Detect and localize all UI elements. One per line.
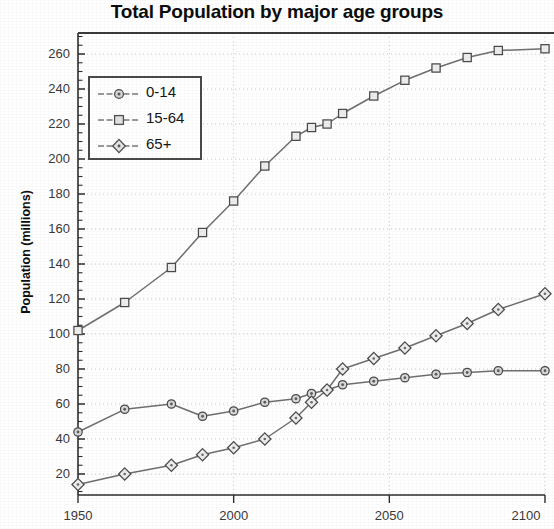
y-tick-label: 60: [30, 396, 70, 411]
data-point-15-64: [432, 64, 440, 72]
y-tick-label: 240: [30, 81, 70, 96]
data-point-65plus: [461, 317, 473, 329]
x-tick-label: 2100: [496, 508, 554, 523]
data-point-0-14: [370, 377, 378, 385]
data-point-65plus: [539, 288, 551, 300]
data-point-15-64: [261, 162, 269, 170]
legend-label-0-14: 0-14: [146, 83, 176, 100]
legend-item-0-14[interactable]: 0-14: [90, 81, 204, 107]
data-point-15-64: [370, 92, 378, 100]
data-point-65plus: [196, 449, 208, 461]
x-tick-label: 2050: [359, 508, 419, 523]
legend-item-65plus[interactable]: 65+: [90, 133, 204, 159]
data-point-65plus: [72, 478, 84, 490]
y-tick-label: 180: [30, 186, 70, 201]
legend-marker-square-icon: [96, 107, 142, 133]
legend: 0-14 15-64 65+: [88, 76, 202, 160]
x-tick-label: 2000: [204, 508, 264, 523]
data-point-15-64: [198, 228, 206, 236]
data-point-0-14: [74, 428, 82, 436]
data-point-15-64: [494, 46, 502, 54]
data-point-65plus: [228, 442, 240, 454]
data-point-65plus: [119, 468, 131, 480]
y-tick-label: 220: [30, 116, 70, 131]
data-point-0-14: [167, 400, 175, 408]
y-tick-label: 20: [30, 466, 70, 481]
data-point-65plus: [368, 352, 380, 364]
data-point-0-14: [121, 405, 129, 413]
data-point-65plus: [492, 303, 504, 315]
plot-area: [0, 0, 554, 529]
y-tick-label: 80: [30, 361, 70, 376]
x-tick-label: 1950: [48, 508, 108, 523]
legend-label-65plus: 65+: [146, 135, 171, 152]
data-point-65plus: [165, 459, 177, 471]
data-point-0-14: [292, 395, 300, 403]
data-point-0-14: [338, 381, 346, 389]
data-point-65plus: [430, 330, 442, 342]
legend-item-15-64[interactable]: 15-64: [90, 107, 204, 133]
data-point-15-64: [541, 45, 549, 53]
data-point-15-64: [121, 298, 129, 306]
y-tick-label: 100: [30, 326, 70, 341]
data-point-15-64: [339, 109, 347, 117]
data-point-65plus: [337, 363, 349, 375]
data-point-0-14: [401, 374, 409, 382]
data-point-15-64: [230, 197, 238, 205]
data-point-0-14: [432, 370, 440, 378]
data-point-65plus: [399, 342, 411, 354]
y-tick-label: 120: [30, 291, 70, 306]
data-point-15-64: [401, 76, 409, 84]
data-point-15-64: [74, 326, 82, 334]
y-tick-label: 40: [30, 431, 70, 446]
data-point-0-14: [261, 398, 269, 406]
data-point-15-64: [292, 132, 300, 140]
legend-label-15-64: 15-64: [146, 109, 184, 126]
data-point-15-64: [167, 263, 175, 271]
legend-marker-diamond-icon: [96, 133, 142, 159]
y-tick-label: 140: [30, 256, 70, 271]
data-point-15-64: [463, 53, 471, 61]
y-tick-label: 260: [30, 46, 70, 61]
legend-marker-circle-icon: [96, 81, 142, 107]
data-point-0-14: [494, 367, 502, 375]
data-point-0-14: [198, 412, 206, 420]
data-point-15-64: [323, 120, 331, 128]
data-point-0-14: [541, 367, 549, 375]
data-point-0-14: [229, 407, 237, 415]
data-point-15-64: [307, 123, 315, 131]
data-point-0-14: [463, 368, 471, 376]
data-point-65plus: [259, 433, 271, 445]
y-tick-label: 160: [30, 221, 70, 236]
y-tick-label: 200: [30, 151, 70, 166]
chart-container: Total Population by major age groups Pop…: [0, 0, 554, 529]
